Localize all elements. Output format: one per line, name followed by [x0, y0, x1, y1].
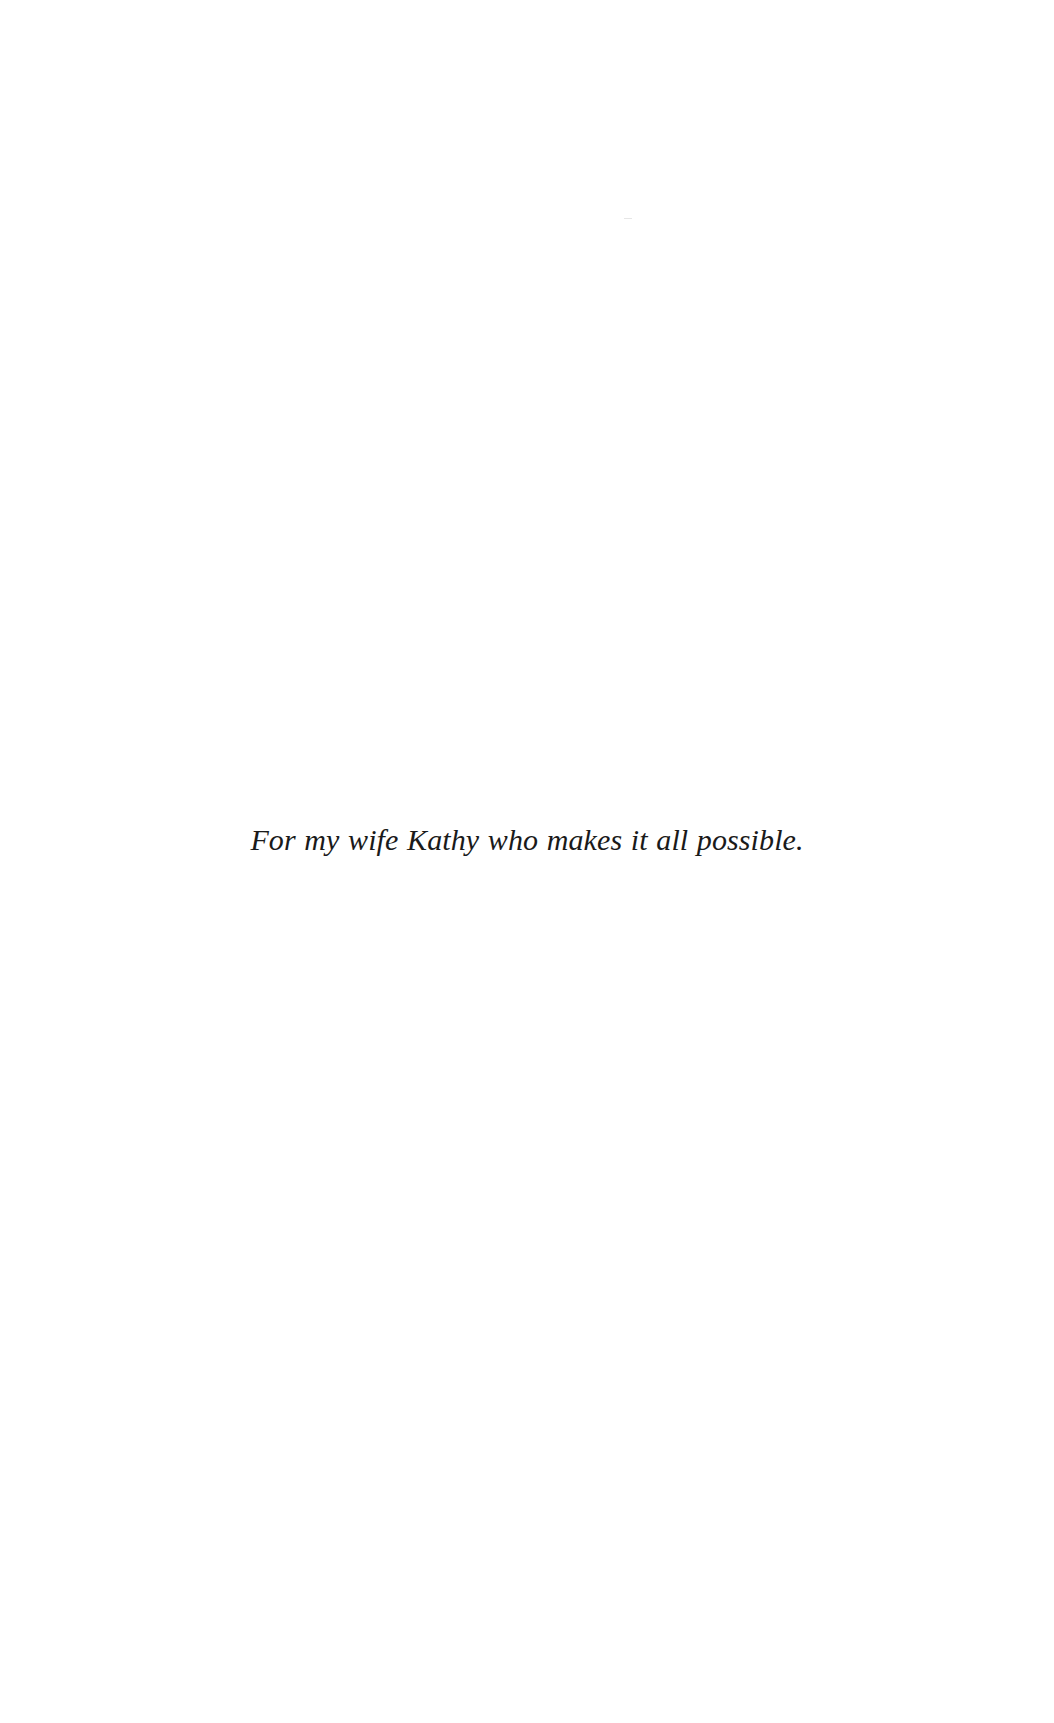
book-page: For my wife Kathy who makes it all possi…	[0, 0, 1054, 1723]
dedication-text: For my wife Kathy who makes it all possi…	[0, 820, 1054, 860]
scan-artifact	[624, 218, 632, 219]
